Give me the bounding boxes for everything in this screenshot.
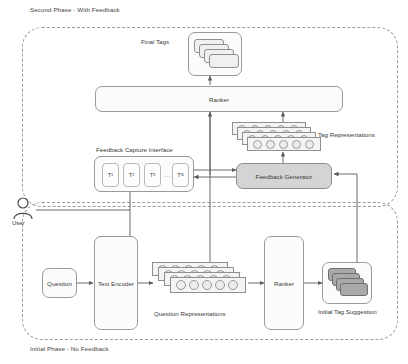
tag-chip[interactable]: T1 xyxy=(102,163,119,187)
tag-representations xyxy=(232,122,332,154)
feedback-generator-label: Feedback Generator xyxy=(256,173,313,180)
tag-representation-unit xyxy=(305,140,314,149)
question-representations-label: Question Representations xyxy=(154,310,226,317)
person-icon xyxy=(10,196,36,222)
ranker-second-phase[interactable]: Ranker xyxy=(95,86,343,112)
tag-chip-sub: 1 xyxy=(111,173,113,177)
question-representation-unit xyxy=(189,280,199,290)
feedback-generator[interactable]: Feedback Generator xyxy=(236,163,332,189)
initial-tag-suggestion-label: Initial Tag Suggestion xyxy=(318,308,377,315)
initial-tag-card xyxy=(340,283,368,296)
question-representations xyxy=(152,262,252,296)
tag-chip-sub: N xyxy=(181,173,184,177)
tag-chip-sub: 3 xyxy=(153,173,155,177)
tag-chip-ellipsis: ... xyxy=(164,172,171,178)
question-box[interactable]: Question xyxy=(42,268,77,298)
feedback-capture-interface-label: Feedback Capture Interface xyxy=(96,146,173,153)
tag-representations-label: Tag Representations xyxy=(318,131,375,138)
question-representation-unit xyxy=(215,280,225,290)
tag-chip[interactable]: T2 xyxy=(123,163,140,187)
ranker-initial-phase-label: Ranker xyxy=(274,280,294,287)
final-tags-label: Final Tags xyxy=(141,38,169,45)
initial-tag-suggestion-box[interactable] xyxy=(322,262,372,304)
text-encoder-box[interactable]: Text Encoder xyxy=(94,236,138,330)
tag-chip[interactable]: T3 xyxy=(144,163,161,187)
question-representation-unit xyxy=(176,280,186,290)
user-label: User xyxy=(12,220,25,226)
question-label: Question xyxy=(47,280,72,287)
final-tags-box[interactable] xyxy=(188,32,242,76)
tag-representation-unit xyxy=(266,140,275,149)
feedback-capture-interface[interactable]: T1 T2 T3 ... TN xyxy=(94,156,194,192)
final-tag-card xyxy=(209,54,239,68)
text-encoder-label: Text Encoder xyxy=(98,280,134,287)
question-representation-unit xyxy=(228,280,238,290)
tag-representation-unit xyxy=(253,140,262,149)
tag-representation-unit xyxy=(292,140,301,149)
ranker-second-phase-label: Ranker xyxy=(209,96,229,103)
diagram-canvas: Second Phase - With Feedback Initial Pha… xyxy=(0,0,408,364)
tag-representation-unit xyxy=(279,140,288,149)
question-representation-unit xyxy=(202,280,212,290)
tag-chip-sub: 2 xyxy=(132,173,134,177)
tag-chip[interactable]: TN xyxy=(172,163,189,187)
ranker-initial-phase[interactable]: Ranker xyxy=(264,236,304,330)
